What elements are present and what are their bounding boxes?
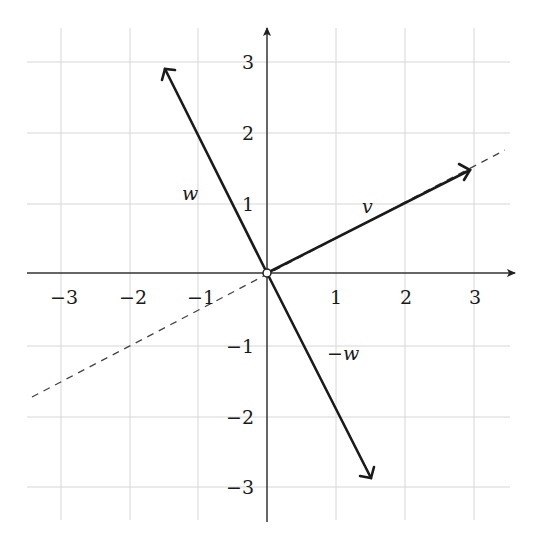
vector-neg-w	[267, 273, 374, 478]
vector-v	[267, 164, 470, 273]
vector-label-w: w	[182, 182, 198, 204]
origin-marker	[263, 269, 271, 277]
x-tick-label: −3	[50, 286, 78, 308]
y-tick-labels: 3 2 1 −1 −2 −3	[226, 51, 254, 498]
y-tick-label: −1	[226, 335, 254, 357]
vector-label-v: v	[362, 195, 373, 217]
y-tick-label: −2	[226, 406, 254, 428]
x-tick-label: 1	[330, 286, 342, 308]
vector-label-neg-w: −w	[327, 342, 359, 364]
x-tick-label: 2	[400, 286, 412, 308]
y-tick-label: 3	[242, 51, 254, 73]
y-tick-label: −3	[226, 476, 254, 498]
x-tick-label: 3	[469, 286, 481, 308]
y-tick-label: 1	[242, 193, 254, 215]
x-tick-labels: −3 −2 −1 1 2 3	[50, 286, 481, 308]
y-tick-label: 2	[242, 122, 254, 144]
vector-w	[162, 69, 267, 273]
x-tick-label: −1	[187, 286, 215, 308]
vector-diagram: −3 −2 −1 1 2 3 3 2 1 −1 −2 −3 v w −w	[0, 0, 537, 545]
x-tick-label: −2	[119, 286, 147, 308]
